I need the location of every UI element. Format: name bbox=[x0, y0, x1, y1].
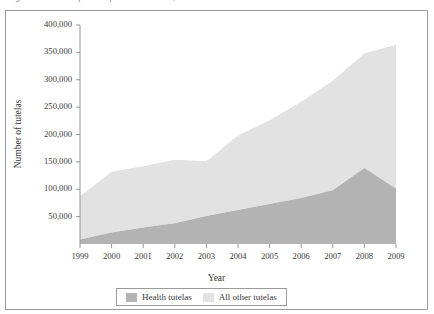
legend-swatch-icon bbox=[203, 293, 214, 302]
figure-frame: Number of tutelas 50,000100,000150,00020… bbox=[5, 10, 428, 310]
legend-entry: All other tutelas bbox=[203, 292, 277, 302]
chart-legend: Health tutelasAll other tutelas bbox=[116, 288, 287, 306]
legend-label: Health tutelas bbox=[142, 292, 192, 302]
x-axis-label: Year bbox=[6, 273, 427, 283]
figure-caption: Figure 1. Number of tutelas filed in Col… bbox=[8, 0, 418, 3]
legend-label: All other tutelas bbox=[219, 292, 277, 302]
figure-container: Figure 1. Number of tutelas filed in Col… bbox=[0, 0, 434, 314]
area-chart-plot bbox=[6, 11, 429, 311]
legend-entry: Health tutelas bbox=[126, 292, 192, 302]
legend-swatch-icon bbox=[126, 293, 137, 302]
